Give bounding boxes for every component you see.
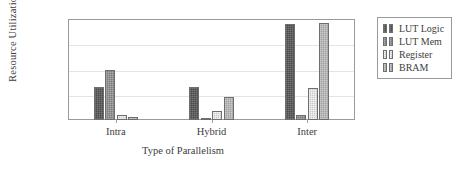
y-axis-title: Resource Utilization (%) — [7, 0, 27, 82]
x-axis-title: Type of Parallelism — [0, 145, 476, 156]
x-axis-tick-mark — [116, 120, 117, 123]
legend-swatch — [383, 50, 387, 59]
bar-lut-logic-inter — [285, 24, 295, 120]
legend-swatch-group — [383, 63, 393, 72]
legend-swatch — [383, 24, 387, 33]
legend-item-register: Register — [383, 48, 444, 61]
bar-bram-hybrid — [224, 97, 234, 120]
bar-register-intra — [117, 115, 127, 120]
legend-swatch — [389, 50, 393, 59]
x-axis-tick-label-intra: Intra — [106, 126, 126, 137]
x-axis-title-text: Type of Parallelism — [142, 145, 224, 156]
bar-lut-logic-intra — [94, 87, 104, 120]
legend-label: LUT Logic — [399, 23, 444, 34]
bar-lut-mem-intra — [105, 70, 115, 121]
x-axis-tick-label-hybrid: Hybrid — [197, 126, 227, 137]
legend-swatch-group — [383, 24, 393, 33]
legend-swatch — [389, 37, 393, 46]
legend-swatch-group — [383, 37, 393, 46]
x-axis-tick-label-inter: Inter — [297, 126, 317, 137]
legend-swatch — [389, 24, 393, 33]
bar-lut-mem-hybrid — [201, 118, 211, 120]
bar-bram-intra — [128, 117, 138, 120]
bar-register-inter — [308, 88, 318, 120]
legend-item-bram: BRAM — [383, 61, 444, 74]
bar-bram-inter — [319, 23, 329, 120]
bar-register-hybrid — [212, 111, 222, 120]
legend-swatch-group — [383, 50, 393, 59]
legend-label: LUT Mem — [399, 36, 442, 47]
legend-label: BRAM — [399, 62, 428, 73]
bar-lut-mem-inter — [296, 115, 306, 120]
x-axis-tick-mark — [307, 120, 308, 123]
legend-item-lut-mem: LUT Mem — [383, 35, 444, 48]
x-axis-tick-mark — [212, 120, 213, 123]
legend-item-lut-logic: LUT Logic — [383, 22, 444, 35]
bar-chart-figure: Resource Utilization (%) 0%20%40%60%80% … — [0, 0, 476, 172]
legend-swatch — [389, 63, 393, 72]
legend-swatch — [383, 63, 387, 72]
gridline — [69, 45, 354, 46]
legend-swatch — [383, 37, 387, 46]
chart-legend: LUT LogicLUT MemRegisterBRAM — [377, 17, 452, 79]
bar-lut-logic-hybrid — [189, 87, 199, 120]
legend-label: Register — [399, 49, 432, 60]
